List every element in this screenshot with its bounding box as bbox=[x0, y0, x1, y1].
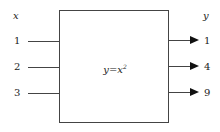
input-value-2: 2 bbox=[14, 62, 20, 72]
input-line-1 bbox=[28, 41, 59, 42]
output-header: y bbox=[203, 11, 209, 21]
input-value-1: 1 bbox=[14, 36, 20, 46]
output-value-2: 4 bbox=[204, 62, 210, 72]
output-line-2 bbox=[169, 66, 191, 67]
function-text: y=x bbox=[103, 64, 123, 75]
input-line-3 bbox=[28, 93, 59, 94]
output-value-1: 1 bbox=[204, 36, 210, 46]
arrow-head-icon bbox=[190, 62, 199, 70]
arrow-head-icon bbox=[190, 36, 199, 44]
input-header: x bbox=[13, 11, 19, 21]
function-label: y=x2 bbox=[60, 63, 170, 75]
input-value-3: 3 bbox=[14, 88, 20, 98]
output-line-1 bbox=[169, 40, 191, 41]
arrow-head-icon bbox=[190, 88, 199, 96]
function-exponent: 2 bbox=[123, 63, 127, 70]
output-line-3 bbox=[169, 92, 191, 93]
function-box: y=x2 bbox=[59, 10, 169, 123]
input-line-2 bbox=[28, 67, 59, 68]
output-value-3: 9 bbox=[204, 88, 210, 98]
